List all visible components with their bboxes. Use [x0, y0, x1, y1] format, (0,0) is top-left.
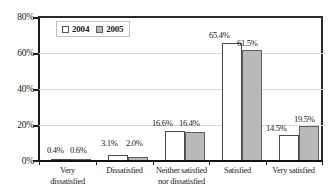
x-tick-mark-1	[96, 161, 97, 165]
x-category-label-very-satisfied: Very satisfied	[264, 166, 323, 177]
bar-value-2004-very-dissatisfied: 0.4%	[47, 146, 64, 155]
gridline-40	[39, 89, 323, 90]
x-category-line2: nor dissatisfied	[149, 177, 214, 188]
x-axis-line	[38, 160, 323, 162]
x-category-line1: Satisfied	[224, 166, 251, 175]
y-tick-label-60: 60%	[0, 48, 34, 58]
bar-value-2004-satisfied: 65.4%	[209, 31, 229, 40]
x-category-line1: Very satisfied	[272, 166, 314, 175]
legend-label-2004: 2004	[72, 24, 89, 34]
x-category-line2: dissatisfied	[39, 177, 96, 188]
bar-2004-satisfied[interactable]	[222, 43, 242, 161]
bar-value-2004-very-satisfied: 14.5%	[266, 124, 286, 133]
bar-2004-very-satisfied[interactable]	[279, 135, 299, 161]
y-tick-label-40: 40%	[0, 84, 34, 94]
bar-value-2005-neither: 16.4%	[179, 119, 199, 128]
x-category-line1: Neither satisfied	[156, 166, 207, 175]
x-tick-mark-2	[153, 161, 154, 165]
x-category-label-neither: Neither satisfied nor dissatisfied	[149, 166, 214, 187]
x-tick-mark-0	[39, 161, 40, 165]
bar-value-2005-satisfied: 61.5%	[237, 39, 257, 48]
x-tick-mark-3	[209, 161, 210, 165]
legend-item-2005[interactable]: 2005	[96, 24, 123, 34]
x-category-line1: Dissatisfied	[106, 166, 143, 175]
plot-area	[39, 17, 323, 161]
x-category-label-dissatisfied: Dissatisfied	[96, 166, 153, 177]
bar-value-2005-very-satisfied: 19.5%	[294, 115, 314, 124]
bar-2004-neither[interactable]	[165, 131, 185, 161]
x-tick-mark-4	[266, 161, 267, 165]
bar-value-2004-neither: 16.6%	[152, 119, 172, 128]
legend: 2004 2005	[56, 21, 130, 37]
x-category-label-very-dissatisfied: Very dissatisfied	[39, 166, 96, 187]
bar-2005-very-satisfied[interactable]	[299, 126, 319, 161]
legend-item-2004[interactable]: 2004	[62, 24, 89, 34]
bar-chart: 80% 60% 40% 20% 0% 0.4% 0.6% 3.1%	[0, 0, 336, 195]
y-tick-label-0: 0%	[0, 156, 34, 166]
legend-label-2005: 2005	[106, 24, 123, 34]
x-tick-mark-5	[322, 161, 323, 165]
legend-swatch-icon-2004	[62, 26, 69, 33]
bar-value-2004-dissatisfied: 3.1%	[101, 139, 118, 148]
x-category-label-satisfied: Satisfied	[209, 166, 266, 177]
bar-2005-neither[interactable]	[185, 132, 205, 162]
bar-2005-satisfied[interactable]	[242, 50, 262, 161]
bar-value-2005-dissatisfied: 2.0%	[126, 139, 143, 148]
legend-swatch-icon-2005	[96, 26, 103, 33]
y-tick-label-80: 80%	[0, 12, 34, 22]
y-tick-label-20: 20%	[0, 120, 34, 130]
y-axis: 80% 60% 40% 20% 0%	[0, 0, 34, 195]
bar-value-2005-very-dissatisfied: 0.6%	[70, 146, 87, 155]
x-category-line1: Very	[60, 166, 75, 175]
gridline-60	[39, 53, 323, 54]
